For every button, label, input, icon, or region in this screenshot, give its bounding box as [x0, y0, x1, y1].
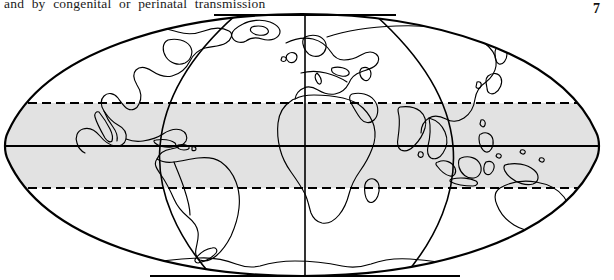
coastline-new-zealand-south — [571, 225, 582, 237]
coastline-tasmania — [544, 234, 553, 242]
world-map-svg — [0, 10, 614, 280]
world-map-figure — [0, 10, 614, 280]
coastline-new-zealand-north — [579, 214, 590, 226]
